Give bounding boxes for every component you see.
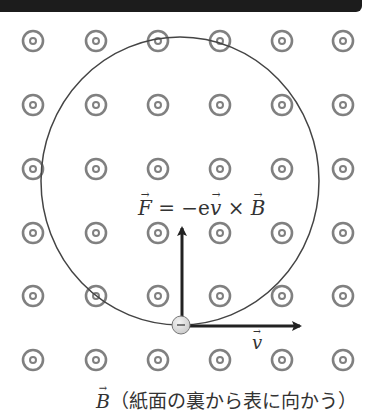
field-out-of-page-icon (86, 159, 106, 179)
field-out-of-page-icon (333, 350, 353, 370)
field-out-of-page-icon (333, 159, 353, 179)
field-out-of-page-icon (148, 159, 168, 179)
field-dot-icon (155, 293, 161, 299)
field-dot-icon (155, 357, 161, 363)
electron (172, 316, 190, 334)
field-dot-icon (30, 166, 36, 172)
field-out-of-page-icon (148, 286, 168, 306)
field-dot-icon (217, 293, 223, 299)
field-out-of-page-icon (23, 223, 43, 243)
field-label: B（紙面の裏から表に向かう） (96, 386, 357, 413)
field-out-of-page-icon (210, 95, 230, 115)
field-dot-icon (155, 102, 161, 108)
field-dot-icon (340, 38, 346, 44)
field-out-of-page-icon (272, 350, 292, 370)
field-dot-icon (30, 230, 36, 236)
field-dot-icon (217, 357, 223, 363)
field-dot-icon (340, 230, 346, 236)
field-out-of-page-icon (272, 159, 292, 179)
field-dot-icon (217, 102, 223, 108)
field-out-of-page-icon (210, 223, 230, 243)
velocity-label: v (252, 332, 262, 353)
field-dot-icon (93, 357, 99, 363)
field-out-of-page-icon (23, 159, 43, 179)
field-dot-icon (340, 293, 346, 299)
field-out-of-page-icon (148, 95, 168, 115)
field-out-of-page-icon (86, 31, 106, 51)
field-out-of-page-icon (86, 223, 106, 243)
field-dot-icon (340, 166, 346, 172)
field-out-of-page-icon (210, 286, 230, 306)
field-dot-icon (217, 166, 223, 172)
field-dot-icon (93, 230, 99, 236)
field-dot-icon (93, 102, 99, 108)
field-dot-icon (279, 230, 285, 236)
field-dot-icon (279, 102, 285, 108)
field-out-of-page-icon (23, 350, 43, 370)
field-out-of-page-icon (333, 31, 353, 51)
field-out-of-page-icon (333, 95, 353, 115)
field-out-of-page-icon (148, 31, 168, 51)
field-out-of-page-icon (272, 95, 292, 115)
field-out-of-page-icon (23, 95, 43, 115)
field-out-of-page-icon (86, 350, 106, 370)
field-dot-icon (279, 166, 285, 172)
field-dot-icon (93, 38, 99, 44)
field-dot-icon (155, 230, 161, 236)
force-equation: F = −ev × B (138, 196, 265, 220)
field-out-of-page-icon (272, 223, 292, 243)
field-dot-icon (279, 293, 285, 299)
field-dot-icon (340, 102, 346, 108)
field-out-of-page-icon (333, 286, 353, 306)
circular-orbit (41, 37, 319, 325)
field-out-of-page-icon (23, 31, 43, 51)
field-dot-icon (93, 166, 99, 172)
field-out-of-page-icon (148, 350, 168, 370)
field-out-of-page-icon (86, 95, 106, 115)
field-dot-icon (279, 38, 285, 44)
field-dot-icon (155, 166, 161, 172)
field-dot-icon (30, 357, 36, 363)
field-dot-icon (217, 230, 223, 236)
field-dot-icon (279, 357, 285, 363)
field-dot-icon (30, 102, 36, 108)
field-out-of-page-icon (333, 223, 353, 243)
field-out-of-page-icon (210, 350, 230, 370)
field-dot-icon (340, 357, 346, 363)
field-out-of-page-icon (148, 223, 168, 243)
field-out-of-page-icon (210, 159, 230, 179)
field-dot-icon (30, 38, 36, 44)
field-out-of-page-icon (272, 286, 292, 306)
field-out-of-page-icon (272, 31, 292, 51)
field-out-of-page-icon (23, 286, 43, 306)
field-dot-icon (30, 293, 36, 299)
